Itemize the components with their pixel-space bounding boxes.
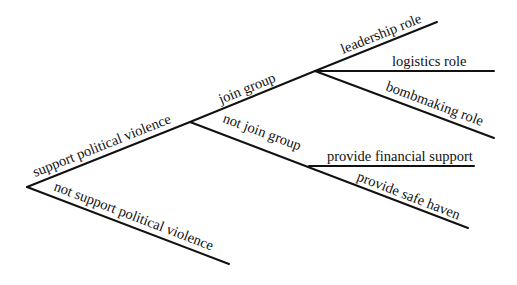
edge-support — [27, 122, 190, 187]
label-logistics: logistics role — [392, 53, 467, 69]
label-not-join: not join group — [221, 110, 304, 154]
edge-bombmaking — [315, 71, 494, 138]
decision-tree: support political violence not support p… — [0, 0, 517, 285]
edge-not-join — [190, 122, 468, 228]
label-financial: provide financial support — [327, 148, 473, 164]
edge-not-support — [27, 187, 229, 264]
label-join: join group — [215, 69, 278, 107]
label-safe-haven: provide safe haven — [355, 168, 464, 223]
label-support: support political violence — [30, 110, 173, 179]
label-not-support: not support political violence — [52, 178, 216, 253]
